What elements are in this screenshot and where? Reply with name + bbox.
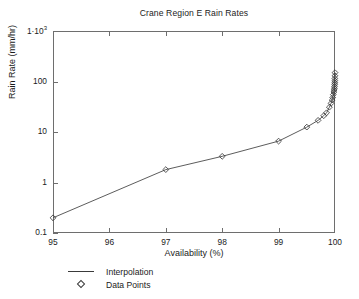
chart-title: Crane Region E Rain Rates [53,8,335,18]
x-tick-label: 95 [33,237,73,247]
legend-line-swatch [60,265,104,278]
x-tick-label: 96 [89,237,129,247]
x-tick-label: 97 [146,237,186,247]
x-tick-label: 98 [202,237,242,247]
y-tick-label: 10 [1,126,47,136]
series-layer [53,31,335,233]
legend-item-data-points: Data Points [60,278,250,291]
y-tick-mark [53,233,58,234]
legend-item-interpolation: Interpolation [60,265,250,278]
y-tick-label: 0.1 [1,227,47,237]
y-axis-label: Rain Rate (mm/hr) [7,2,21,122]
interpolation-line [53,73,335,218]
legend-label-interpolation: Interpolation [104,267,153,277]
x-tick-label: 100 [315,237,355,247]
x-tick-label: 99 [259,237,299,247]
chart-legend: Interpolation Data Points [60,265,250,291]
legend-label-data-points: Data Points [104,280,150,290]
legend-diamond-swatch [60,278,104,291]
chart-figure: Crane Region E Rain Rates 0.11101001·103… [0,0,359,299]
x-axis-label: Availability (%) [53,248,335,258]
data-point-markers [50,70,338,221]
y-tick-label: 1 [1,177,47,187]
